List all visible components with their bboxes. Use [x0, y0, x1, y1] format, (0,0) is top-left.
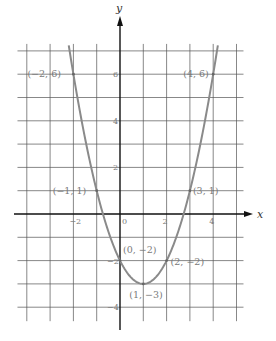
y-tick-label: −2: [107, 257, 119, 266]
x-axis-arrow-icon: [244, 211, 253, 217]
point-label: (−2, 6): [27, 68, 61, 79]
data-point: [212, 73, 215, 76]
y-tick-label: 2: [113, 163, 118, 172]
y-axis-arrow-icon: [117, 16, 123, 26]
point-label: (0, −2): [123, 244, 157, 255]
y-tick-label: 4: [113, 117, 118, 126]
y-tick-label: 6: [113, 70, 118, 79]
grid-lines: [17, 44, 243, 321]
data-point: [142, 283, 145, 286]
data-point: [95, 189, 98, 192]
x-tick-label: 0: [122, 217, 127, 226]
point-label: (−1, 1): [53, 185, 87, 196]
point-label: (3, 1): [193, 185, 219, 196]
data-point: [189, 189, 192, 192]
x-tick-label: 4: [209, 217, 214, 226]
data-point: [165, 259, 168, 262]
x-tick-label: 2: [163, 217, 168, 226]
parabola-graph: −2024642−2−4 (−2, 6)(4, 6)(−1, 1)(3, 1)(…: [0, 0, 276, 341]
y-tick-label: −4: [107, 303, 119, 312]
x-tick-label: −2: [69, 217, 81, 226]
point-label: (1, −3): [129, 289, 163, 300]
point-label: (4, 6): [183, 68, 209, 79]
data-point: [72, 73, 75, 76]
data-point: [119, 259, 122, 262]
point-label: (2, −2): [171, 256, 205, 267]
x-axis-label: x: [257, 208, 264, 221]
y-axis-label: y: [115, 2, 123, 15]
